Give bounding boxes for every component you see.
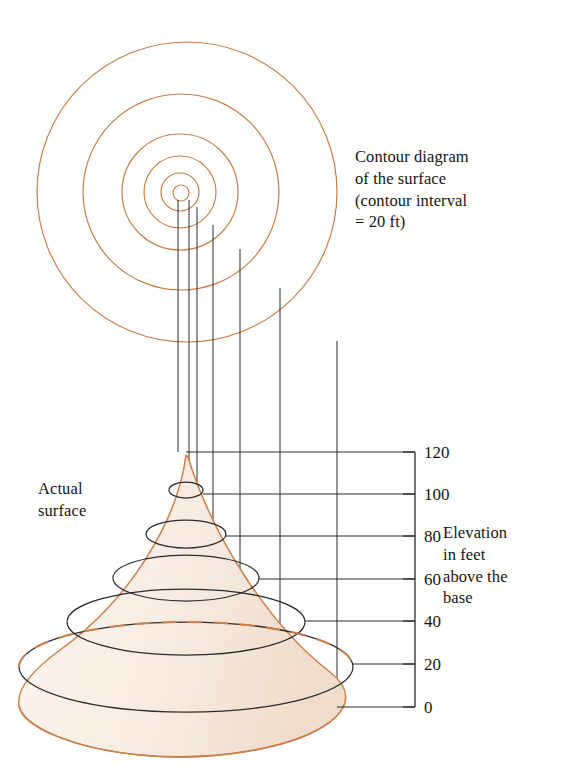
contour-circle-level-120 — [173, 185, 189, 201]
contour-circle-level-60 — [122, 134, 238, 250]
axis-tick-label-0: 0 — [424, 699, 433, 716]
contour-circle-level-20 — [37, 42, 337, 342]
axis-tick-label-20: 20 — [424, 656, 441, 673]
elevation-axis — [403, 452, 415, 707]
contour-diagram-circles — [37, 42, 337, 342]
actual-surface-caption: Actual surface — [38, 478, 168, 522]
axis-tick-label-120: 120 — [424, 444, 450, 461]
contour-diagram-caption: Contour diagram of the surface (contour … — [355, 146, 555, 233]
axis-tick-label-80: 80 — [424, 528, 441, 545]
contour-circle-level-100 — [161, 173, 199, 211]
contour-circle-level-40 — [83, 94, 279, 290]
axis-tick-label-40: 40 — [424, 613, 441, 630]
axis-tick-label-100: 100 — [424, 486, 450, 503]
figure-graphics — [0, 0, 574, 773]
contour-surface-figure: Contour diagram of the surface (contour … — [0, 0, 574, 773]
contour-circle-level-80 — [144, 156, 216, 228]
elevation-axis-caption: Elevation in feet above the base — [443, 522, 563, 609]
axis-tick-label-60: 60 — [424, 571, 441, 588]
